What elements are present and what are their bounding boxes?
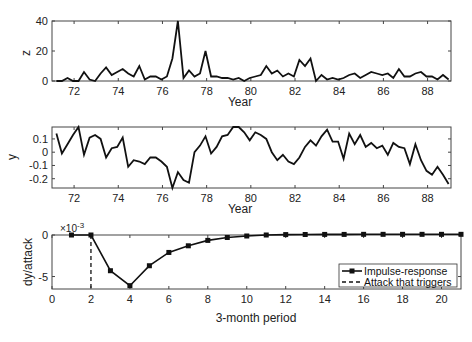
impulse-panel: 02468101214161820 0-5 ×10-3 dy/attack 3-… (21, 221, 464, 325)
x-tick-label: 86 (377, 85, 389, 97)
x-tick-label: 6 (166, 293, 172, 305)
y-panel: 727476788082848688 0.10-0.1-0.2 y Year (5, 127, 451, 216)
x-tick-label: 78 (201, 192, 213, 204)
impulse-ylabel: dy/attack (21, 237, 35, 286)
y-scale-multiplier: ×10-3 (60, 221, 85, 234)
x-tick-label: 76 (156, 192, 168, 204)
impulse-marker (361, 232, 366, 237)
y-tick-label: -0.2 (29, 173, 48, 185)
x-tick-label: 12 (280, 293, 292, 305)
legend-impulse-marker-icon (350, 269, 355, 274)
x-tick-label: 20 (435, 293, 447, 305)
y-tick-label: 0 (42, 146, 48, 158)
x-tick-label: 84 (333, 85, 345, 97)
y-tick-label: 0.1 (33, 133, 48, 145)
impulse-marker (400, 232, 405, 237)
x-tick-label: 76 (156, 85, 168, 97)
x-tick-label: 72 (68, 192, 80, 204)
impulse-marker (186, 243, 191, 248)
impulse-marker (147, 263, 152, 268)
x-tick-label: 10 (241, 293, 253, 305)
x-tick-label: 0 (49, 293, 55, 305)
y-tick-label: -0.1 (29, 159, 48, 171)
z-panel: 727476788082848688 02040 z Year (19, 15, 451, 109)
impulse-marker (225, 235, 230, 240)
figure: 727476788082848688 02040 z Year 72747678… (0, 0, 472, 342)
x-tick-label: 2 (88, 293, 94, 305)
z-xticks: 727476788082848688 (68, 21, 434, 97)
impulse-marker (166, 250, 171, 255)
impulse-marker (283, 232, 288, 237)
impulse-marker (88, 233, 93, 238)
x-tick-label: 72 (68, 85, 80, 97)
impulse-marker (264, 233, 269, 238)
x-tick-label: 16 (357, 293, 369, 305)
impulse-marker (342, 232, 347, 237)
x-tick-label: 86 (377, 192, 389, 204)
impulse-marker (459, 232, 464, 237)
impulse-marker (127, 283, 132, 288)
impulse-xlabel: 3-month period (216, 311, 297, 325)
y-xlabel: Year (228, 202, 252, 216)
y-tick-label: 0 (42, 75, 48, 87)
y-tick-label: -5 (38, 271, 48, 283)
y-tick-label: 0 (42, 229, 48, 241)
impulse-marker (108, 268, 113, 273)
impulse-marker (420, 232, 425, 237)
x-tick-label: 88 (421, 192, 433, 204)
x-tick-label: 82 (289, 85, 301, 97)
impulse-marker (322, 232, 327, 237)
x-tick-label: 8 (205, 293, 211, 305)
z-series-line (56, 21, 448, 81)
legend-attack-label: Attack that triggers (364, 276, 452, 288)
impulse-marker (244, 233, 249, 238)
z-ylabel: z (19, 50, 33, 56)
impulse-marker (205, 238, 210, 243)
z-axes-frame (52, 21, 451, 81)
x-tick-label: 78 (201, 85, 213, 97)
y-series-line (56, 127, 448, 188)
impulse-marker (303, 232, 308, 237)
x-tick-label: 84 (333, 192, 345, 204)
y-tick-label: 40 (36, 15, 48, 27)
x-tick-label: 88 (421, 85, 433, 97)
impulse-marker (381, 232, 386, 237)
legend: Impulse-response Attack that triggers (339, 264, 457, 288)
x-tick-label: 18 (396, 293, 408, 305)
x-tick-label: 74 (112, 192, 124, 204)
x-tick-label: 14 (319, 293, 331, 305)
x-tick-label: 4 (127, 293, 133, 305)
y-ylabel: y (5, 154, 19, 160)
y-tick-label: 20 (36, 45, 48, 57)
x-tick-label: 82 (289, 192, 301, 204)
y-axes-frame (52, 127, 451, 188)
y-yticks: 0.10-0.1-0.2 (29, 133, 451, 185)
z-xlabel: Year (228, 95, 252, 109)
x-tick-label: 74 (112, 85, 124, 97)
impulse-marker (439, 232, 444, 237)
